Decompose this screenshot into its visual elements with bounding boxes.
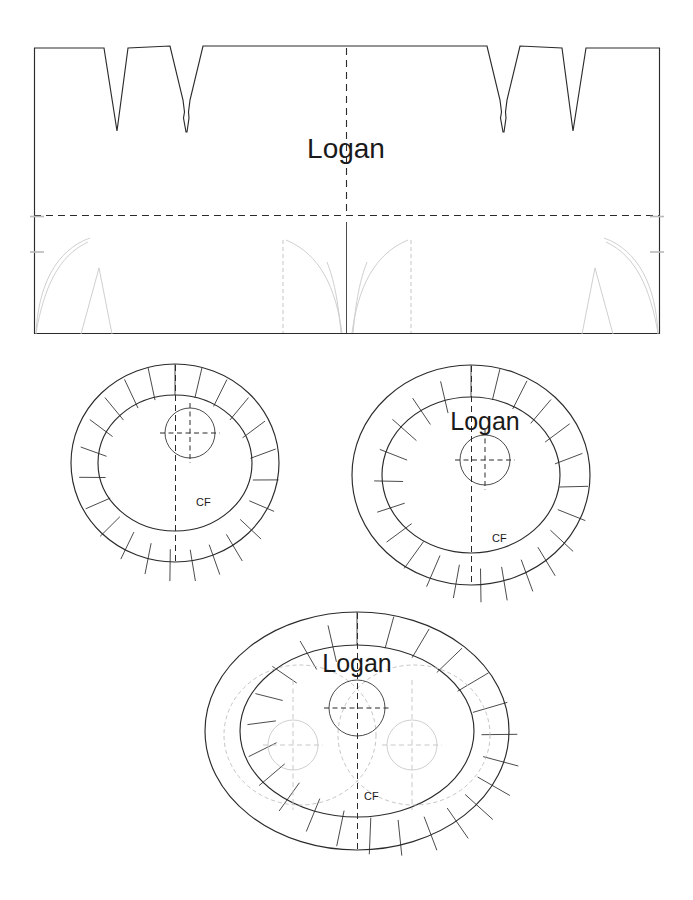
base-small-cf-label: CF (196, 496, 211, 508)
side-band-ghost-dart-left (81, 268, 112, 334)
base-large-title: Logan (450, 407, 520, 435)
piece-side-band: Logan (30, 46, 664, 334)
piece-base-large: Logan CF (352, 365, 590, 602)
side-band-ghost-dart-right (582, 268, 613, 334)
base-double-title: Logan (322, 649, 392, 677)
base-double-ghost-oval-left (224, 665, 376, 805)
side-band-ghost-arc-left-outer (36, 238, 90, 334)
base-small-notches (79, 364, 278, 581)
side-band-ghost-arc-centerleft (286, 240, 342, 333)
base-double-ghost-oval-right (338, 665, 490, 805)
piece-base-small: CF (71, 364, 279, 581)
side-band-title: Logan (307, 133, 385, 164)
base-double-cf-label: CF (364, 790, 379, 802)
pattern-canvas: Logan (0, 0, 693, 900)
side-band-ghost-arc-centerright (352, 240, 408, 333)
side-band-ghost-arc-left-inner (36, 242, 88, 333)
piece-base-double: Logan CF (205, 612, 518, 856)
side-band-ghost-arc-right-inner (606, 242, 658, 333)
pattern-sheet: Logan (0, 0, 693, 900)
base-large-cf-label: CF (492, 532, 507, 544)
side-band-ghost-arc-right-outer (604, 238, 658, 334)
